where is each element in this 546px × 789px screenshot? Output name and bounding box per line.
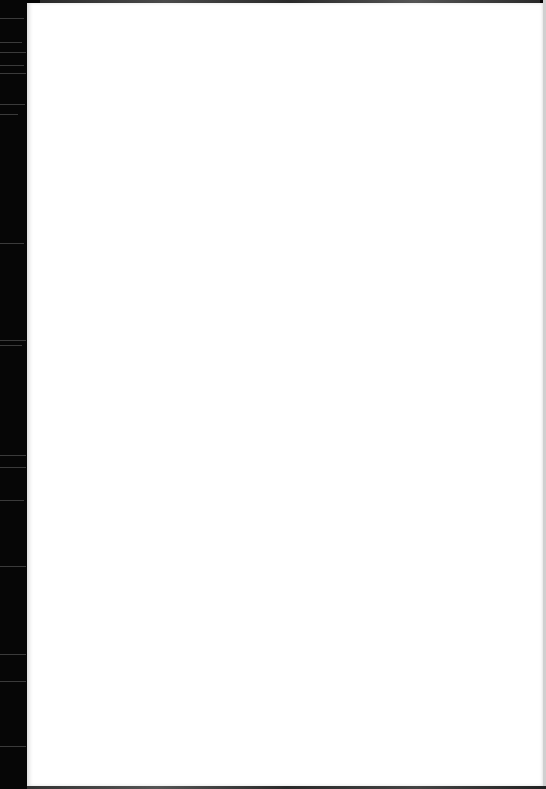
scan-streak xyxy=(0,104,25,105)
scan-streak xyxy=(0,654,26,655)
scan-streak xyxy=(0,345,22,346)
scan-streak xyxy=(0,340,26,341)
scanned-document xyxy=(0,0,546,789)
scan-streak xyxy=(0,243,24,244)
scan-streak xyxy=(0,52,26,53)
scan-streak xyxy=(0,455,26,456)
scan-streak xyxy=(0,42,22,43)
scan-streak xyxy=(0,114,18,115)
scan-streak xyxy=(0,18,24,19)
scan-streak xyxy=(0,65,24,66)
scan-streak xyxy=(0,467,26,468)
scan-streak xyxy=(0,746,26,747)
scan-streak xyxy=(0,500,24,501)
scan-streak xyxy=(0,73,26,74)
scanner-left-edge xyxy=(0,0,27,789)
blank-page xyxy=(27,3,543,786)
scan-streak xyxy=(0,566,26,567)
scan-streak xyxy=(0,681,26,682)
